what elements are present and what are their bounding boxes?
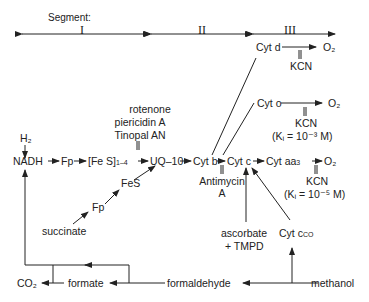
rotenone-label: rotenone [118, 104, 182, 115]
segment-ii-label: II [198, 24, 206, 36]
tinopal-label: Tinopal AN [108, 130, 172, 141]
segment-label: Segment: [48, 13, 91, 23]
fp-node: Fp [61, 156, 73, 167]
kcn-d-inhibitor: KCN [290, 61, 312, 72]
cyt-o-node: Cyt o [257, 98, 282, 109]
kcn-o-inhibitor: KCN [295, 118, 317, 129]
co2-node: CO₂ [17, 278, 37, 289]
fes-cluster-node: [Fe S]1–4 [88, 156, 128, 167]
cyt-d-node: Cyt d [256, 42, 281, 53]
formaldehyde-node: formaldehyde [167, 278, 231, 289]
formate-node: formate [68, 278, 104, 289]
segment-i-label: I [80, 24, 84, 36]
kcn-aa3-ki: (Kᵢ = 10⁻⁵ M) [284, 189, 345, 200]
fes-node: FeS [121, 178, 140, 189]
o2-o-node: O₂ [328, 98, 340, 109]
antimycin-label: Antimycin [197, 176, 247, 187]
cyt-aa3-node: Cyt aa3 [266, 156, 300, 167]
kcn-o-ki: (Kᵢ = 10⁻³ M) [272, 131, 332, 142]
tmpd-node: + TMPD [225, 241, 264, 252]
fp-succinate-node: Fp [92, 202, 104, 213]
o2-d-node: O₂ [323, 42, 335, 53]
segment-iii-label: III [284, 24, 296, 36]
cyt-b-node: Cyt b [193, 156, 218, 167]
pathway-arrows [0, 0, 369, 302]
nadh-node: NADH [13, 156, 43, 167]
antimycin-a-label: A [197, 188, 247, 199]
uq10-node: UQ–10 [150, 156, 183, 167]
methanol-node: methanol [311, 278, 354, 289]
kcn-aa3-inhibitor: KCN [306, 176, 328, 187]
cyt-cco-node: Cyt cCO [279, 228, 313, 239]
piericidin-label: piericidin A [108, 117, 172, 128]
ascorbate-node: ascorbate [221, 228, 267, 239]
succinate-node: succinate [42, 226, 86, 237]
o2-aa3-node: O₂ [324, 156, 336, 167]
h2-node: H₂ [20, 133, 32, 144]
cyt-c-node: Cyt c [227, 156, 251, 167]
